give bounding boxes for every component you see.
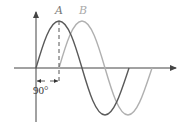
curve-a-label: A (54, 4, 63, 17)
phase-shift-diagram: 90° A B (0, 0, 183, 131)
curve-b-label: B (78, 4, 87, 17)
phase-label: 90° (33, 84, 48, 96)
